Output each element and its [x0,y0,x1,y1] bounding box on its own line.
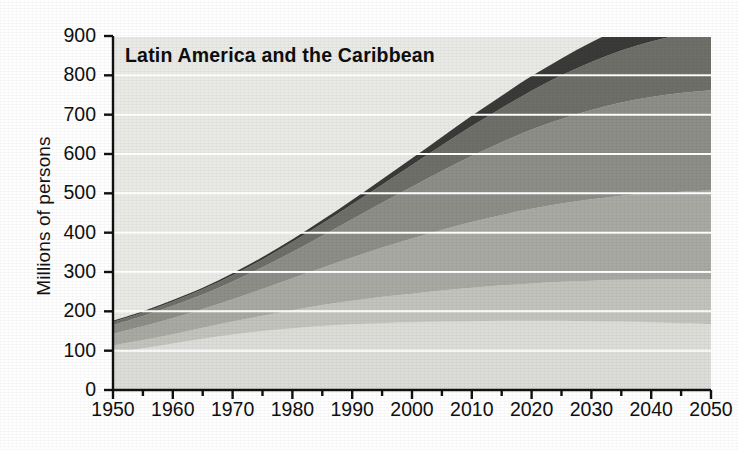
y-tick-100: 100 [42,341,96,361]
y-tick-700: 700 [42,105,96,125]
y-axis-tick-labels: 9008007006005004003002001000 [38,0,96,450]
y-tick-400: 400 [42,223,96,243]
y-tick-200: 200 [42,301,96,321]
x-tick-2050: 2050 [676,400,739,420]
y-tick-600: 600 [42,144,96,164]
y-tick-300: 300 [42,262,96,282]
chart-title: Latin America and the Caribbean [125,44,435,67]
y-tick-900: 900 [42,26,96,46]
y-tick-800: 800 [42,65,96,85]
plot-area [113,36,711,390]
y-tick-0: 0 [42,380,96,400]
stacked-area-chart [113,36,711,390]
y-tick-500: 500 [42,183,96,203]
